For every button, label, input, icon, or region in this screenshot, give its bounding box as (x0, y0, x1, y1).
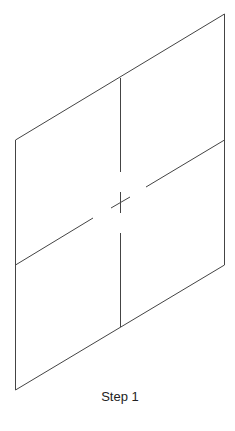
step-caption: Step 1 (0, 389, 235, 404)
diagonal-divider-left (16, 218, 94, 265)
diagonal-divider-right (146, 140, 225, 187)
center-cross-mark (111, 192, 130, 213)
parallelogram-diagram (0, 0, 235, 431)
